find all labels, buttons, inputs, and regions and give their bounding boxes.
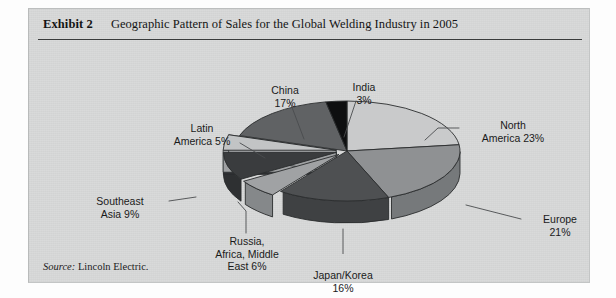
source-keyword: Source: bbox=[43, 261, 75, 272]
source-note: Source: Lincoln Electric. bbox=[43, 261, 148, 272]
exhibit-panel: Exhibit 2 Geographic Pattern of Sales fo… bbox=[28, 8, 590, 283]
slice-label-russia: Russia, Africa, Middle East 6% bbox=[191, 235, 303, 273]
exhibit-header: Exhibit 2 Geographic Pattern of Sales fo… bbox=[29, 9, 589, 39]
slice-label-europe: Europe 21% bbox=[525, 213, 595, 238]
slice-label-north-america: North America 23% bbox=[463, 119, 563, 144]
slice-label-india: India 3% bbox=[334, 81, 394, 106]
slice-label-china: China 17% bbox=[250, 84, 320, 109]
exhibit-label: Exhibit 2 bbox=[43, 17, 93, 32]
pie-chart: China 17% India 3% North America 23% Eur… bbox=[29, 39, 589, 254]
source-text: Lincoln Electric. bbox=[75, 261, 148, 272]
slice-label-southeast-asia: Southeast Asia 9% bbox=[73, 195, 167, 220]
page-root: Exhibit 2 Geographic Pattern of Sales fo… bbox=[0, 0, 616, 298]
pie-chart-svg bbox=[29, 39, 589, 254]
leader-line-russia bbox=[238, 202, 246, 233]
exhibit-title: Geographic Pattern of Sales for the Glob… bbox=[111, 17, 458, 32]
pie-slices-group bbox=[223, 101, 460, 223]
slice-label-japan-korea: Japan/Korea 16% bbox=[290, 269, 396, 294]
leader-line-europe bbox=[466, 205, 521, 219]
slice-label-latin-america: Latin America 5% bbox=[157, 122, 247, 147]
pie-slice-top bbox=[347, 101, 459, 151]
leader-line-southeast-asia bbox=[169, 197, 196, 201]
